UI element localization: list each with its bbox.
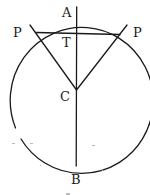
scan-speck xyxy=(40,165,41,166)
scan-speck xyxy=(92,145,95,146)
label-A: A xyxy=(61,5,72,20)
line-CP-right xyxy=(77,25,128,90)
circle-arc xyxy=(10,27,150,173)
label-C: C xyxy=(60,89,70,104)
label-T: T xyxy=(62,35,71,50)
label-B: B xyxy=(71,172,81,187)
scan-speck xyxy=(30,143,33,144)
diagram-canvas: A P T P C B xyxy=(0,0,150,195)
scan-speck xyxy=(66,193,70,195)
scan-speck xyxy=(12,143,15,144)
geometry-figure: A P T P C B xyxy=(0,0,150,195)
line-AB xyxy=(76,7,77,166)
scan-speck xyxy=(102,170,103,171)
label-P-right: P xyxy=(133,25,142,40)
label-P-left: P xyxy=(13,25,22,40)
